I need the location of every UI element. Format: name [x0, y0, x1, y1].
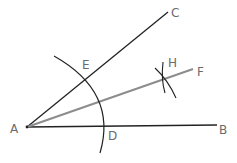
label-a: A [10, 122, 19, 136]
label-c: C [171, 6, 179, 20]
label-d: D [108, 129, 117, 143]
arc-h-from-d [155, 68, 176, 98]
point-a-dot [26, 126, 29, 129]
angle-bisector-diagram: A B C D E F H [0, 0, 237, 163]
segment-ac [27, 12, 168, 127]
label-b: B [219, 123, 227, 137]
label-h: H [168, 56, 177, 70]
label-f: F [197, 65, 204, 79]
segment-ab [27, 125, 217, 127]
label-e: E [82, 58, 90, 72]
bisector-af [27, 69, 193, 127]
